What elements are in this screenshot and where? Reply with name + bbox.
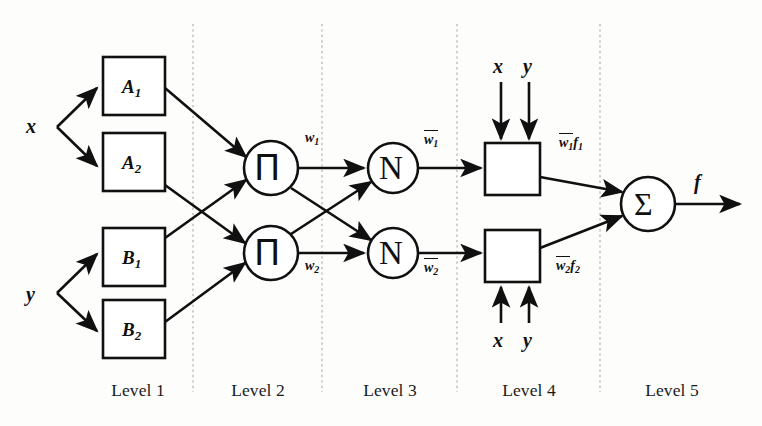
level1-to-level2-edges [165,88,246,322]
normalized-weight-label-w1: w1 [424,133,438,149]
output-label-f: f [694,172,701,192]
membership-b1-sub: 1 [135,256,142,271]
level-label-5: Level 5 [634,382,710,400]
level4-input-edges [501,82,529,323]
summation-node-symbol: Σ [634,188,653,220]
overbar [424,130,438,131]
level4-node-shapes [485,143,540,282]
weighted-2-tailsub: 2 [575,264,580,275]
level1-node-shapes [103,57,165,358]
edge-product2-to-norm1 [291,182,371,234]
weighted-1-tailsub: 1 [578,141,583,152]
membership-a2-sub: 2 [135,161,142,176]
edge-y-to-b2 [57,293,97,331]
level-label-1: Level 1 [100,382,176,400]
weighted-output-label-1: w1f1 [559,136,583,152]
product-node-1-symbol: Π [254,151,280,186]
consequent-2-input-x-label: x [493,330,503,350]
weighted-1-sub: 1 [568,141,573,152]
weighted-2-bar-wrap: w2 [556,259,570,275]
level-label-3: Level 3 [352,382,428,400]
consequent-node-1[interactable] [485,143,540,195]
consequent-1-input-x-label: x [493,56,503,76]
level-dividers [193,24,600,392]
edge-a2-to-product2 [165,185,245,243]
normalized-w2-bar-wrap: w2 [424,261,438,277]
level2-to-level3-edges [291,168,371,253]
level4-to-level5-edges [540,177,622,248]
level-label-4: Level 4 [491,382,567,400]
input-y-label: y [26,284,35,304]
weighted-1-bar-wrap: w1 [559,136,573,152]
consequent-1-input-y-label: y [523,56,532,76]
weighted-1-base: w [559,135,568,150]
weight-label-w2: w2 [305,259,319,275]
membership-a1-base: A [122,76,135,97]
edge-y-to-b1 [57,254,97,293]
edge-consequent1-to-sum [540,177,622,192]
edge-a1-to-product1 [165,88,246,157]
normalization-node-1-symbol: N [379,152,403,185]
overbar [424,258,438,259]
level-label-2: Level 2 [220,382,296,400]
membership-a1-sub: 1 [135,85,142,100]
weighted-output-label-2: w2f2 [556,259,580,275]
input-x-label: x [26,116,36,136]
normalized-w1-base: w [424,132,433,147]
level3-to-level4-edges [418,168,481,253]
weighted-2-sub: 2 [565,264,570,275]
edge-b1-to-product1 [165,180,246,238]
edge-b2-to-product2 [165,263,245,322]
normalization-node-2-symbol: N [379,237,403,270]
membership-b1-base: B [122,247,135,268]
edge-product1-to-norm2 [291,188,371,240]
anfis-diagram-canvas: x y A1 A2 B1 B2 Π Π w1 w2 N N w1 w2 x y … [0,0,762,426]
weight-w2-sub: 2 [314,264,319,275]
weight-w1-base: w [305,130,314,145]
overbar [559,133,573,134]
edge-consequent2-to-sum [540,216,622,248]
edge-x-to-a2 [57,127,97,166]
weight-label-w1: w1 [305,131,319,147]
membership-node-a2-label: A2 [122,153,141,175]
normalized-w1-sub: 1 [433,138,438,149]
membership-node-b1-label: B1 [122,248,141,270]
product-node-2-symbol: Π [254,236,280,271]
membership-b2-base: B [122,319,135,340]
membership-a2-base: A [122,152,135,173]
edge-x-to-a1 [57,88,97,127]
overbar [556,256,570,257]
membership-node-b2-label: B2 [122,320,141,342]
normalized-w2-sub: 2 [433,266,438,277]
normalized-w2-base: w [424,260,433,275]
consequent-node-2[interactable] [485,230,540,282]
normalized-w1-bar-wrap: w1 [424,133,438,149]
input-fanout-edges [57,88,97,331]
membership-node-a1-label: A1 [122,77,141,99]
normalized-weight-label-w2: w2 [424,261,438,277]
consequent-2-input-y-label: y [523,330,532,350]
membership-b2-sub: 2 [135,328,142,343]
weight-w2-base: w [305,258,314,273]
weight-w1-sub: 1 [314,136,319,147]
weighted-2-base: w [556,258,565,273]
